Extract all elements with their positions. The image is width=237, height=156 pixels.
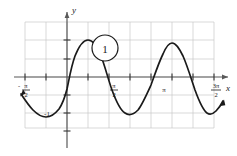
- x-tick-neg-pi-over-2-sign: -: [18, 82, 20, 89]
- graph-figure: y x -1 - π 2 π 2 π 3π 2 1: [0, 0, 237, 156]
- x-axis-label: x: [225, 83, 230, 93]
- x-tick-neg-pi-over-2-denominator: 2: [24, 91, 27, 98]
- y-axis-label: y: [71, 5, 76, 15]
- x-tick-label-pi: π: [162, 86, 166, 94]
- graph-svg: y x -1 - π 2 π 2 π 3π 2 1: [0, 0, 237, 156]
- annotation-circle-label: 1: [102, 43, 108, 55]
- x-tick-three-pi-over-2-denominator: 2: [214, 91, 217, 98]
- x-tick-three-pi-over-2-numerator: 3π: [213, 82, 220, 89]
- x-tick-pi-over-2-denominator: 2: [112, 91, 115, 98]
- annotation-circled-one: 1: [92, 35, 118, 61]
- figure-background: [0, 0, 237, 156]
- y-tick-label-neg-one: -1: [44, 110, 50, 118]
